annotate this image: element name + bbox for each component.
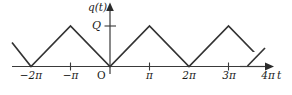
y-axis-label: q(t) <box>88 2 107 13</box>
waveform-figure: q(t) Q O −2π −π π 2π 3π 4π t <box>0 0 292 95</box>
waveform-line <box>12 26 268 67</box>
y-tick-label-Q: Q <box>92 20 101 31</box>
x-tick-label-3pi: 3π <box>217 70 241 81</box>
x-axis-label: t <box>277 70 281 81</box>
x-tick-label-pi: π <box>142 70 157 81</box>
x-tick-label-minus-2pi: −2π <box>18 70 44 81</box>
x-tick-label-2pi: 2π <box>177 70 201 81</box>
y-axis-arrow-icon <box>106 3 114 12</box>
x-tick-label-minus-pi: −π <box>59 70 82 81</box>
origin-label: O <box>97 70 106 81</box>
